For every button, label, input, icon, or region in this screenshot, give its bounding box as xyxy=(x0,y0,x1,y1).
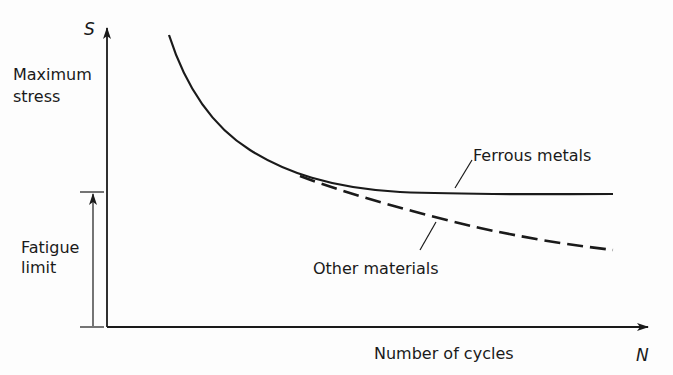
sn-diagram: S Maximum stress Fatigue limit Ferrous m… xyxy=(0,0,673,375)
other-materials-curve xyxy=(300,176,613,250)
other-materials-label: Other materials xyxy=(313,259,439,278)
ferrous-leader-line xyxy=(455,160,472,188)
ferrous-metals-curve xyxy=(169,35,613,194)
other-leader-line xyxy=(420,222,436,250)
x-axis-symbol: N xyxy=(636,345,649,365)
y-axis-label-line1: Maximum xyxy=(13,65,92,84)
y-axis-symbol: S xyxy=(84,19,95,39)
y-axis-label-line2: stress xyxy=(13,87,60,106)
x-axis-label: Number of cycles xyxy=(374,344,514,363)
fatigue-limit-label-line1: Fatigue xyxy=(21,238,79,257)
fatigue-limit-label-line2: limit xyxy=(21,258,56,277)
ferrous-metals-label: Ferrous metals xyxy=(473,146,591,165)
diagram-svg: S Maximum stress Fatigue limit Ferrous m… xyxy=(0,0,673,375)
